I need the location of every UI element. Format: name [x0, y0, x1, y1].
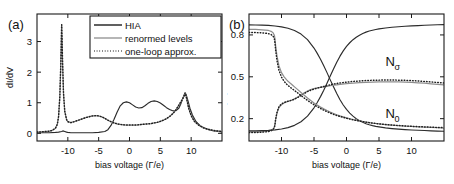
panel-a-svg: (a) -10-505100123bias voltage (Γ/e)dI/dV… — [0, 0, 227, 184]
legend-label-1: renormed levels — [125, 33, 193, 44]
annotation-0-subscript: σ — [395, 62, 401, 72]
x-tick-label: 5 — [376, 145, 381, 156]
x-tick-label: 5 — [158, 145, 163, 156]
panel-a: (a) -10-505100123bias voltage (Γ/e)dI/dV… — [0, 0, 227, 184]
curve-n-0-hia — [249, 25, 444, 131]
panel-b-curves — [249, 25, 444, 133]
y-tick-label: 0.5 — [231, 71, 244, 82]
panel-b-svg: (b) -10-505100.20.50.8bias voltage (Γ/e)… — [227, 0, 454, 184]
legend: HIArenormed levelsone-loop approx. — [90, 16, 221, 58]
x-axis-label: bias voltage (Γ/e) — [95, 160, 164, 170]
y-tick-label: 3 — [27, 36, 32, 47]
y-axis-label: dI/dV — [5, 67, 15, 88]
x-axis-label: bias voltage (Γ/e) — [312, 160, 381, 170]
y-tick-label: 1 — [27, 97, 32, 108]
annotation-1: N — [386, 106, 395, 121]
x-tick-label: 0 — [127, 145, 132, 156]
x-tick-label: 0 — [344, 145, 349, 156]
x-tick-label: -5 — [310, 145, 318, 156]
panel-b: (b) -10-505100.20.50.8bias voltage (Γ/e)… — [227, 0, 454, 184]
annotation-1-subscript: 0 — [395, 114, 400, 124]
x-tick-label: 10 — [186, 145, 197, 156]
x-tick-label: -5 — [94, 145, 102, 156]
y-tick-label: 0.2 — [231, 113, 244, 124]
annotation-0: N — [386, 54, 395, 69]
curve-n-sigma-one-loop — [249, 80, 444, 133]
curve-n-0-renorm — [249, 29, 444, 128]
panel-b-annotations: NσN0 — [386, 54, 401, 124]
legend-label-0: HIA — [125, 20, 142, 31]
legend-label-2: one-loop approx. — [125, 46, 196, 57]
y-tick-label: 0 — [27, 128, 32, 139]
x-tick-label: 10 — [406, 145, 417, 156]
y-tick-label: 0.8 — [231, 29, 244, 40]
y-tick-label: 2 — [27, 67, 32, 78]
figure-container: (a) -10-505100123bias voltage (Γ/e)dI/dV… — [0, 0, 454, 184]
plot-frame — [249, 14, 444, 141]
x-tick-label: -10 — [61, 145, 75, 156]
x-tick-label: -10 — [275, 145, 289, 156]
panel-a-tag: (a) — [8, 17, 24, 32]
curve-n-sigma-hia — [249, 25, 444, 131]
